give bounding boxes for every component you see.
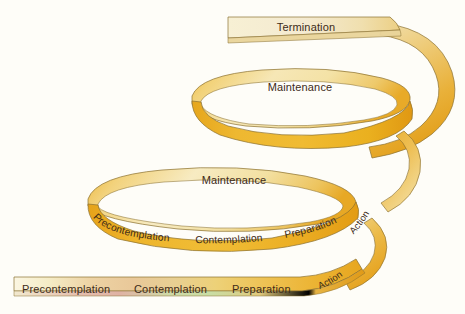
label-maintenance-lower: Maintenance [202,174,267,186]
spiral-model-figure: Termination Maintenance M [0,0,465,314]
label-maintenance-upper: Maintenance [268,81,333,93]
label-precontemplation-bottom: Precontemplation [22,283,110,295]
label-preparation-bottom: Preparation [232,283,291,295]
label-contemplation-loop: Contemplation [195,232,263,245]
band-termination: Termination [228,17,401,43]
label-termination: Termination [277,21,336,33]
spiral-diagram-canvas: Termination Maintenance M [0,0,465,314]
band-bottom: Precontemplation Contemplation Preparati… [14,259,365,296]
label-contemplation-bottom: Contemplation [134,283,207,295]
band-loop-upper: Maintenance [192,69,413,149]
band-loop-lower: Maintenance Precontemplation Contemplati… [88,168,371,252]
